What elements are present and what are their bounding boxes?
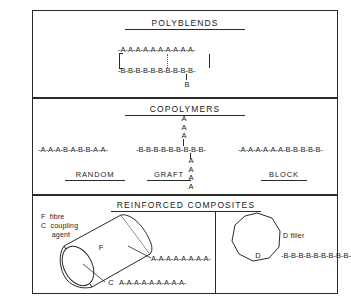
copolymer-block-chain: -A-A-A-A-A-A-B-B-B-B-B- <box>238 146 323 154</box>
polyblend-bracket-left-bottom <box>119 68 123 69</box>
polyblend-bracket-left-top <box>119 53 123 54</box>
copolymer-graft-backbone: -B-B-B-B-B-B-B-B-B- <box>136 146 206 154</box>
copolymer-label-random: RANDOM <box>65 171 125 181</box>
polyblend-pendant-b: B <box>182 81 192 89</box>
section-title-polyblends: POLYBLENDS <box>125 19 245 30</box>
copolymer-random-chain: -A-A-A-B-A-B-B-A-A- <box>38 146 108 154</box>
fibre-label-f: F <box>95 244 107 252</box>
polyblend-chain-b: -B-B-B-B-B-B-B-B-B-B- <box>118 67 196 75</box>
filler-caption: D filler <box>283 231 304 240</box>
filler-chain: -B-B-B-B-B-B-B-B-B- <box>281 252 351 260</box>
copolymer-label-graft: GRAFT <box>147 171 191 181</box>
filler-particle-drawing <box>215 196 339 295</box>
panel-polyblends: POLYBLENDS -A-A-A-A-A-A-A-A-A-A- -B-B-B-… <box>32 10 338 98</box>
polyblend-bracket-left <box>119 53 120 69</box>
filler-label-d: D <box>252 252 264 260</box>
fibre-chain-bottom: A-A-A-A-A-A-A-A-A- <box>119 279 187 287</box>
copolymer-label-block: BLOCK <box>261 171 307 181</box>
polyblend-link-right <box>209 54 210 68</box>
panel-copolymers: COPOLYMERS -A-A-A-B-A-B-B-A-A- RANDOM A … <box>32 98 338 195</box>
fibre-chain-top: A-A-A-A-A-A-A-A- <box>151 255 211 263</box>
polyblend-chain-a: -A-A-A-A-A-A-A-A-A-A- <box>118 46 196 54</box>
polyblend-dotted-link <box>167 54 168 68</box>
coupling-agent-label-c: C <box>106 279 116 287</box>
panel-composites: REINFORCED COMPOSITES F fibre C coupling… <box>32 195 338 294</box>
copolymer-graft-branch-up: A A A <box>179 115 189 141</box>
